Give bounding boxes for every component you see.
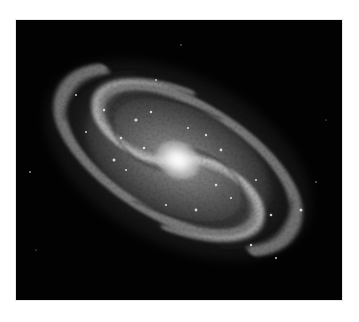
page: [0, 0, 359, 322]
spiral-galaxy: [16, 20, 342, 300]
galaxy-photo: [16, 20, 342, 300]
